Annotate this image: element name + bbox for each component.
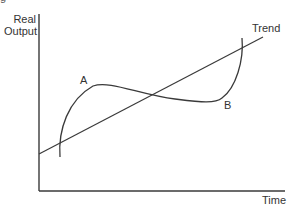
trend-line: [39, 37, 263, 154]
x-axis-label: Time: [262, 194, 286, 205]
diagram-canvas: [0, 0, 289, 205]
point-b-label: B: [224, 99, 231, 111]
trend-label: Trend: [252, 22, 280, 34]
output-curve: [60, 38, 243, 157]
point-a-label: A: [80, 74, 87, 86]
